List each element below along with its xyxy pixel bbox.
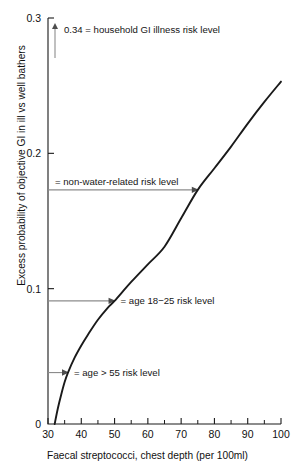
chart-canvas: 3040506070809010000.10.20.3 [0, 0, 295, 464]
up-arrow-icon [52, 23, 58, 29]
y-tick-label: 0.2 [26, 147, 41, 159]
ticks-group [48, 18, 281, 424]
annotation-label-household-gi: 0.34 = household GI illness risk level [64, 25, 220, 35]
y-tick-label: 0.1 [26, 283, 41, 295]
x-tick-label: 80 [209, 428, 221, 440]
x-axis-title: Faecal streptococci, chest depth (per 10… [0, 450, 295, 461]
x-tick-label: 90 [242, 428, 254, 440]
x-tick-label: 70 [175, 428, 187, 440]
x-tick-label: 50 [109, 428, 121, 440]
x-tick-label: 40 [75, 428, 87, 440]
annotation-lines-group [48, 23, 199, 376]
annotation-label-age-18-25: = age 18−25 risk level [121, 296, 215, 306]
y-axis-title: Excess probability of objective GI in il… [16, 1, 27, 331]
y-tick-label: 0 [35, 418, 41, 430]
chart-figure: 3040506070809010000.10.20.3 Faecal strep… [0, 0, 295, 464]
annotation-label-non-water-related: = non-water-related risk level [55, 177, 178, 187]
x-tick-label: 60 [142, 428, 154, 440]
x-tick-label: 100 [272, 428, 290, 440]
axes-group [48, 18, 281, 424]
annotation-label-age-over-55: = age > 55 risk level [74, 368, 160, 378]
x-tick-label: 30 [42, 428, 54, 440]
y-tick-label: 0.3 [26, 12, 41, 24]
